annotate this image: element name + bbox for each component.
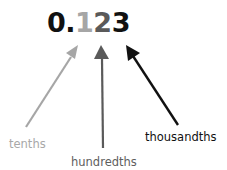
label-hundredths: hundredths	[71, 155, 137, 169]
arrow-tenths-icon	[26, 45, 78, 127]
label-thousandths: thousandths	[145, 130, 217, 144]
arrow-thousandths-icon	[126, 45, 178, 125]
arrow-hundredths-icon	[94, 45, 109, 148]
label-tenths: tenths	[9, 137, 46, 151]
